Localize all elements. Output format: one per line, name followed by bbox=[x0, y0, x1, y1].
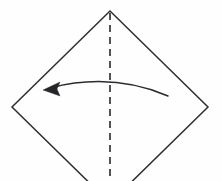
diagram-background bbox=[0, 0, 222, 181]
origami-fold-diagram bbox=[0, 0, 222, 181]
fold-diagram-canvas bbox=[0, 0, 222, 181]
